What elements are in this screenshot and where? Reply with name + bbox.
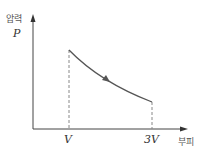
x-tick-v: V bbox=[64, 133, 72, 146]
y-axis-symbol: P bbox=[13, 27, 20, 40]
x-axis-arrow-icon bbox=[180, 127, 188, 132]
y-axis-arrow-icon bbox=[31, 14, 36, 22]
x-tick-3v: 3V bbox=[144, 133, 159, 146]
direction-arrow-icon bbox=[102, 75, 110, 82]
x-axis-label: 부피 bbox=[178, 135, 194, 148]
process-curve bbox=[69, 50, 152, 102]
y-axis-label: 압력 bbox=[6, 12, 22, 25]
pv-diagram bbox=[0, 0, 209, 155]
